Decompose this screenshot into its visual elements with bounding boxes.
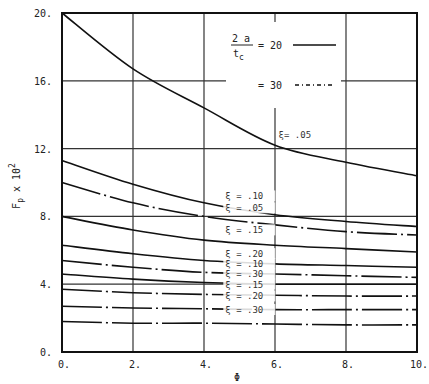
curve-label: ξ = .15 <box>225 225 263 235</box>
x-tick-label: 4. <box>200 359 212 370</box>
x-axis-label: Φ <box>234 372 240 383</box>
curve-label: ξ = .20 <box>225 249 263 259</box>
x-tick-label: 2. <box>129 359 141 370</box>
x-tick-label: 0. <box>58 359 70 370</box>
svg-text:Fp x 102: Fp x 102 <box>8 163 25 209</box>
curve-label: ξ = .10 <box>225 191 263 201</box>
curve-label: ξ= .05 <box>279 130 312 140</box>
x-axis-ticks: 0.2.4.6.8.10. <box>58 359 428 370</box>
y-tick-label: 8. <box>40 211 52 222</box>
y-tick-label: 16. <box>34 76 52 87</box>
legend-entry-label: = 20 <box>258 40 282 51</box>
x-tick-label: 6. <box>271 359 283 370</box>
chart: 0.4.8.12.16.20. 0.2.4.6.8.10. ξ= .05ξ = … <box>0 0 429 384</box>
legend-ratio-numerator: 2 a <box>232 33 250 44</box>
legend-entry-label: = 30 <box>258 80 282 91</box>
curve-label: ξ = .15 <box>225 280 263 290</box>
y-tick-label: 20. <box>34 8 52 19</box>
x-tick-label: 10. <box>410 359 428 370</box>
y-tick-label: 4. <box>40 279 52 290</box>
curve-label: ξ = .30 <box>225 269 263 279</box>
curve-label: ξ = .05 <box>225 203 263 213</box>
curve-labels: ξ= .05ξ = .10ξ = .05ξ = .15ξ = .20ξ = .1… <box>223 129 328 315</box>
curve-label: ξ = .30 <box>225 305 263 315</box>
y-axis-label: Fp x 102 <box>8 163 25 209</box>
y-tick-label: 0. <box>40 347 52 358</box>
curve-xi-30-dash-dot <box>62 321 417 324</box>
x-tick-label: 8. <box>342 359 354 370</box>
curve-label: ξ = .10 <box>225 259 263 269</box>
y-tick-label: 12. <box>34 144 52 155</box>
y-axis-ticks: 0.4.8.12.16.20. <box>34 8 52 358</box>
curve-label: ξ = .20 <box>225 291 263 301</box>
